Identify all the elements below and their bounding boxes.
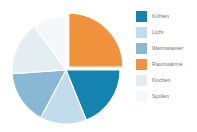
legend-swatch-icon-kochen bbox=[136, 75, 147, 86]
legend-swatch-icon-kuehlen bbox=[136, 11, 147, 22]
legend-item-licht[interactable]: Licht bbox=[136, 24, 197, 40]
legend-item-kuehlen[interactable]: Kühlen bbox=[136, 8, 197, 24]
legend-item-warmwasser[interactable]: Warmwasser bbox=[136, 40, 197, 56]
legend-label-spuelen: Spülen bbox=[152, 93, 169, 100]
legend-item-raumwaerme[interactable]: Raumwärme bbox=[136, 56, 197, 72]
legend-label-kuehlen: Kühlen bbox=[152, 13, 169, 20]
pie-chart-svg bbox=[0, 0, 132, 132]
pie-slice-group bbox=[12, 13, 123, 124]
chart-legend: Kühlen Licht Warmwasser Raumwärme Kochen… bbox=[136, 8, 197, 104]
legend-label-raumwaerme: Raumwärme bbox=[152, 61, 183, 68]
legend-item-kochen[interactable]: Kochen bbox=[136, 72, 197, 88]
legend-swatch-icon-spuelen bbox=[136, 91, 147, 102]
legend-item-spuelen[interactable]: Spülen bbox=[136, 88, 197, 104]
legend-swatch-icon-raumwaerme bbox=[136, 59, 147, 70]
pie-chart-figure: Kühlen Licht Warmwasser Raumwärme Kochen… bbox=[0, 0, 197, 132]
legend-label-licht: Licht bbox=[152, 29, 164, 36]
pie-slice[interactable] bbox=[69, 13, 123, 67]
legend-swatch-icon-warmwasser bbox=[136, 43, 147, 54]
legend-swatch-icon-licht bbox=[136, 27, 147, 38]
legend-label-warmwasser: Warmwasser bbox=[152, 45, 184, 52]
pie-chart-plot-area bbox=[0, 0, 132, 132]
legend-label-kochen: Kochen bbox=[152, 77, 171, 84]
